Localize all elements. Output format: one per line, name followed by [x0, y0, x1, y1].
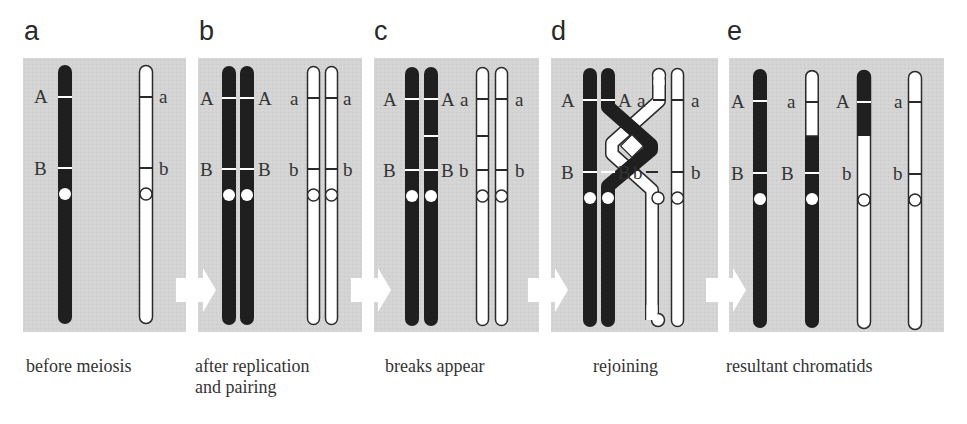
allele-B-label: B: [258, 159, 271, 180]
centromere-icon: [223, 189, 235, 201]
centromere-icon: [241, 189, 253, 201]
allele-b-label: b: [289, 159, 299, 180]
allele-b-label: b: [515, 160, 525, 181]
allele-A-label: A: [34, 86, 48, 107]
allele-a-label: a: [343, 88, 352, 109]
caption-a-line1: before meiosis: [26, 356, 131, 377]
chromatid-aB-white-segment: [806, 71, 819, 136]
chromatid-cap-fill: [654, 75, 665, 85]
allele-a-label: a: [637, 90, 646, 111]
allele-A-label: A: [836, 91, 850, 112]
centromere-icon: [858, 194, 870, 206]
allele-a-label: a: [894, 91, 903, 112]
caption-b-line1: after replication: [195, 356, 309, 377]
caption-b-line2: and pairing: [195, 377, 309, 398]
caption-e: resultant chromatids: [726, 356, 872, 377]
caption-d: rejoining: [593, 356, 658, 377]
allele-b-label: b: [633, 162, 643, 183]
allele-B-label: B: [561, 162, 574, 183]
caption-e-line1: resultant chromatids: [726, 356, 872, 377]
centromere-icon: [425, 190, 437, 202]
allele-A-label: A: [441, 89, 455, 110]
caption-c: breaks appear: [385, 356, 484, 377]
allele-B-label: B: [731, 163, 744, 184]
allele-A-label: A: [200, 88, 214, 109]
panel-letter-a: a: [24, 16, 40, 46]
caption-b: after replication and pairing: [195, 356, 309, 398]
centromere-icon: [652, 192, 664, 204]
allele-A-label: A: [731, 91, 745, 112]
allele-b-label: b: [893, 163, 903, 184]
allele-B-label: B: [781, 163, 794, 184]
allele-B-label: B: [618, 162, 631, 183]
allele-a-label: a: [787, 91, 796, 112]
centromere-icon: [602, 192, 614, 204]
allele-a-label: a: [290, 88, 299, 109]
caption-d-line1: rejoining: [593, 356, 658, 377]
allele-A-label: A: [618, 90, 632, 111]
centromere-icon: [140, 188, 152, 200]
allele-A-label: A: [561, 90, 575, 111]
centromere-icon: [672, 192, 684, 204]
chromatid-cap-fill: [647, 305, 658, 320]
centromere-icon: [308, 189, 320, 201]
panel-letter-e: e: [727, 16, 742, 46]
allele-B-label: B: [441, 160, 454, 181]
caption-c-line1: breaks appear: [385, 356, 484, 377]
allele-a-label: a: [691, 90, 700, 111]
allele-b-label: b: [159, 158, 169, 179]
centromere-icon: [754, 193, 766, 205]
allele-b-label: b: [343, 159, 353, 180]
centromere-icon: [326, 189, 338, 201]
centromere-icon: [584, 192, 596, 204]
centromere-icon: [909, 194, 921, 206]
allele-B-label: B: [200, 159, 213, 180]
allele-B-label: B: [34, 158, 47, 179]
allele-B-label: B: [383, 160, 396, 181]
allele-a-label: a: [515, 89, 524, 110]
caption-a: before meiosis: [26, 356, 131, 377]
allele-a-label: a: [460, 89, 469, 110]
panel-letter-b: b: [199, 16, 214, 46]
centromere-icon: [496, 190, 508, 202]
allele-A-label: A: [258, 88, 272, 109]
allele-A-label: A: [383, 89, 397, 110]
panel-letter-d: d: [551, 16, 566, 46]
centromere-icon: [806, 193, 818, 205]
centromere-icon: [59, 188, 71, 200]
allele-b-label: b: [691, 162, 701, 183]
panel-letter-c: c: [374, 16, 388, 46]
allele-b-label: b: [459, 160, 469, 181]
centromere-icon: [406, 190, 418, 202]
centromere-icon: [477, 190, 489, 202]
allele-b-label: b: [842, 163, 852, 184]
allele-a-label: a: [159, 86, 168, 107]
